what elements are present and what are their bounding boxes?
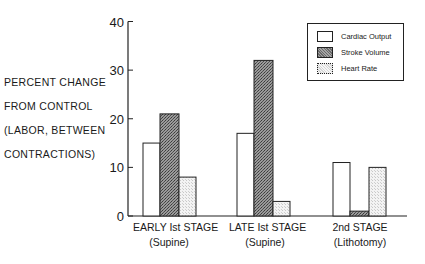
bar-stroke-volume <box>254 60 273 216</box>
category-label-early: EARLY Ist STAGE (Supine) <box>133 220 205 250</box>
heart-rate-swatch-icon <box>317 63 333 74</box>
bar-stroke-volume <box>160 114 179 216</box>
legend: Cardiac Output Stroke Volume Heart Rate <box>307 23 404 81</box>
bar-heart-rate <box>369 167 386 216</box>
category-label-early-line-1: EARLY Ist STAGE <box>133 220 205 235</box>
legend-label: Cardiac Output <box>341 32 391 41</box>
y-tick-label: 0 <box>117 209 124 224</box>
category-label-late: LATE Ist STAGE (Supine) <box>229 220 301 250</box>
y-axis-label-line-4: CONTRACTIONS) <box>4 148 95 160</box>
bar-heart-rate <box>273 201 290 216</box>
cardiac-output-swatch-icon <box>317 31 333 42</box>
category-label-early-line-2: (Supine) <box>133 235 205 250</box>
category-label-second-line-2: (Lithotomy) <box>324 235 396 250</box>
legend-item-cardiac-output: Cardiac Output <box>317 30 391 42</box>
bar-heart-rate <box>179 177 196 216</box>
stroke-volume-swatch-icon <box>317 47 333 58</box>
category-label-second: 2nd STAGE (Lithotomy) <box>324 220 396 250</box>
y-tick-label: 30 <box>110 63 124 78</box>
legend-label: Heart Rate <box>341 64 377 73</box>
bar-cardiac-output <box>333 163 350 216</box>
y-tick-label: 20 <box>110 112 124 127</box>
y-tick-label: 40 <box>110 15 124 30</box>
y-axis-label-line-1: PERCENT CHANGE <box>4 76 106 88</box>
legend-item-stroke-volume: Stroke Volume <box>317 46 390 58</box>
bar-stroke-volume <box>350 211 369 216</box>
bar-cardiac-output <box>237 133 254 216</box>
category-label-second-line-1: 2nd STAGE <box>324 220 396 235</box>
y-axis-label-line-3: (LABOR, BETWEEN <box>4 124 105 136</box>
bars <box>143 60 386 216</box>
legend-item-heart-rate: Heart Rate <box>317 62 377 74</box>
y-axis-label-line-2: FROM CONTROL <box>4 100 93 112</box>
bar-cardiac-output <box>143 143 160 216</box>
y-tick-label: 10 <box>110 160 124 175</box>
legend-label: Stroke Volume <box>341 48 390 57</box>
category-label-late-line-1: LATE Ist STAGE <box>229 220 301 235</box>
category-label-late-line-2: (Supine) <box>229 235 301 250</box>
